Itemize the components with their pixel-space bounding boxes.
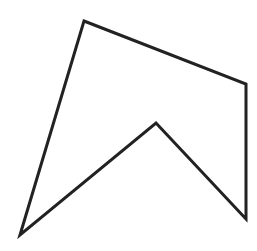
diagram-canvas xyxy=(0,0,257,251)
concave-pentagon-shape xyxy=(20,21,246,235)
